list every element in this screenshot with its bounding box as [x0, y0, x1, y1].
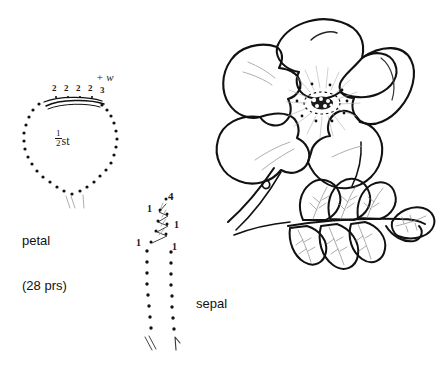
petal-top-arcs	[44, 97, 104, 109]
wild-rose-flower	[217, 19, 414, 188]
sepal-zigzag	[150, 198, 169, 244]
sepal-tail-marks	[145, 336, 180, 350]
sepal-dotted-column-right	[169, 250, 175, 330]
compound-leaf-sprig	[288, 179, 434, 269]
thorned-stem	[228, 168, 290, 235]
petal-tail-marks	[66, 195, 84, 208]
sepal-dotted-column-left	[145, 249, 152, 329]
petal-dotted-outline	[22, 96, 118, 196]
line-art-layer	[0, 0, 440, 368]
diagram-canvas: 2 2 2 2 3 + w 1 2 st petal (28 prs) 4 1 …	[0, 0, 440, 368]
